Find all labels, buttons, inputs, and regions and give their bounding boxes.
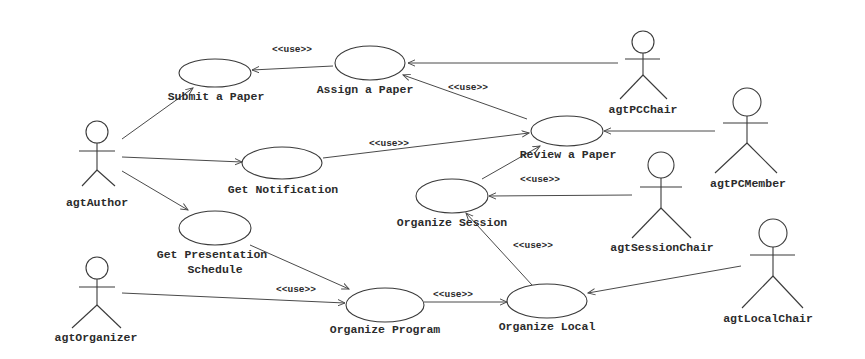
use-case-ellipse [531,116,603,146]
edge-author-notification [122,157,242,162]
stick-figure-icon [79,121,115,186]
actor-pc-member[interactable]: agtPCMember [710,88,786,190]
use-case-label: Get Notification [228,183,339,196]
use-case-get-presentation-schedule[interactable]: Get Presentation Schedule [157,211,268,276]
actor-local-chair[interactable]: agtLocalChair [723,219,813,325]
stereotype-review-assign: <<use>> [448,82,488,93]
stereotype-assign-submit: <<use>> [272,44,312,55]
use-case-ellipse [335,46,405,80]
actor-label: agtLocalChair [723,312,813,325]
actor-label: agtOrganizer [55,331,138,344]
stereotype-sessionchair-session: <<use>> [520,174,560,185]
use-case-label: Organize Program [330,323,441,336]
use-case-label: Organize Session [397,216,508,229]
stereotype-notification-review: <<use>> [369,138,409,149]
stereotype-local-session: <<use>> [513,240,553,251]
use-case-organize-session[interactable]: Organize Session [397,179,508,229]
stick-figure-icon [72,257,121,328]
use-case-get-notification[interactable]: Get Notification [228,147,339,196]
use-case-organize-local[interactable]: Organize Local [499,284,596,333]
use-case-label: Organize Local [499,320,596,333]
stick-figure-icon [742,219,803,308]
use-case-assign-paper[interactable]: Assign a Paper [317,46,414,96]
use-case-ellipse [242,147,322,179]
use-case-ellipse [179,59,251,87]
use-case-organize-program[interactable]: Organize Program [330,288,441,336]
stick-figure-icon [715,88,777,173]
use-case-label: Review a Paper [520,148,617,161]
use-case-ellipse [507,284,587,318]
edge-notification-review [323,133,529,158]
actor-label: agtPCMember [710,177,786,190]
use-case-review-paper[interactable]: Review a Paper [520,116,617,161]
use-case-ellipse [179,211,251,245]
stereotype-organizer-program: <<use>> [276,284,316,295]
stick-figure-icon [632,152,691,238]
edge-author-schedule [122,171,188,210]
stereotype-program-local: <<use>> [433,289,473,300]
actor-label: agtPCChair [608,103,677,116]
actor-organizer[interactable]: agtOrganizer [55,257,138,344]
actor-pc-chair[interactable]: agtPCChair [608,31,677,116]
use-case-label: Assign a Paper [317,83,414,96]
use-case-label-line1: Get Presentation [157,248,268,261]
use-case-ellipse [346,288,424,322]
use-case-diagram: <<use>> <<use>> <<use>> <<use>> <<use>> … [0,0,865,359]
edge-assign-submit [252,66,333,70]
actor-session-chair[interactable]: agtSessionChair [610,152,714,254]
use-case-label-line2: Schedule [187,263,242,276]
use-case-ellipse [416,179,488,213]
use-case-label: Submit a Paper [168,90,265,103]
actor-author[interactable]: agtAuthor [66,121,128,209]
edge-localchair-local [588,266,741,293]
actor-label: agtSessionChair [610,241,714,254]
use-case-submit-paper[interactable]: Submit a Paper [168,59,265,103]
stick-figure-icon [620,31,667,99]
edge-sessionchair-session [489,195,632,196]
actor-label: agtAuthor [66,196,128,209]
